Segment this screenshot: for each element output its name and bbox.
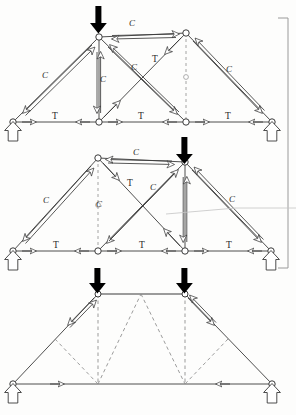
joint-bottom-mid-left — [95, 248, 101, 254]
member-label: T — [138, 111, 144, 121]
member-label: T — [139, 240, 145, 250]
applied-load-arrow-left — [89, 268, 106, 294]
support-reaction-right — [264, 384, 281, 404]
dashed-web-right-diagonal — [141, 294, 185, 384]
joint-top-right — [183, 30, 189, 36]
force-arrow-left-rafter-c — [23, 166, 94, 244]
force-arrow-left-rafter-c — [23, 45, 95, 116]
force-arrow-right-rafter — [188, 296, 216, 326]
force-arrow-diagonal-c — [108, 45, 179, 114]
joint-top-left — [95, 155, 101, 161]
member-label: C — [131, 62, 138, 72]
right-rafter — [186, 33, 272, 122]
right-bracket — [278, 18, 288, 268]
member-label: T — [152, 54, 158, 64]
joint-bottom-mid-right — [182, 248, 188, 254]
member-label: C — [43, 195, 50, 205]
applied-load-arrow — [90, 6, 107, 34]
member-label: C — [100, 74, 107, 84]
joint-apex — [96, 34, 102, 40]
dashed-web-left-diagonal — [98, 294, 141, 384]
member-label: C — [226, 64, 233, 74]
truss-diagram-3 — [5, 268, 281, 403]
dashed-web-outer-right — [185, 339, 228, 384]
member-label: T — [226, 240, 232, 250]
member-label: C — [150, 182, 157, 192]
member-label: T — [127, 178, 133, 188]
member-label: T — [53, 240, 59, 250]
support-reaction-left — [5, 384, 22, 404]
dashed-web-outer-left — [55, 339, 98, 384]
member-label: C — [229, 194, 236, 204]
joint-bottom-mid-left — [96, 119, 102, 125]
support-reaction-right — [263, 251, 280, 271]
member-label: T — [225, 111, 231, 121]
truss-diagram-1: C C C C T C T T T — [5, 6, 281, 141]
force-arrow-top-chord-c — [112, 34, 179, 39]
truss-diagram-2: C C C T C C T T T — [5, 137, 280, 270]
joint-bottom-mid-right — [183, 119, 189, 125]
right-rafter — [185, 162, 271, 251]
force-arrow-right-rafter-c — [193, 39, 265, 114]
applied-load-arrow — [176, 137, 193, 164]
member-label: T — [52, 111, 58, 121]
support-reaction-left — [5, 251, 22, 271]
left-rafter — [13, 37, 99, 122]
member-label: C — [133, 147, 140, 157]
truss-figure: C C C C T C T T T — [0, 0, 296, 415]
right-rafter — [185, 294, 272, 384]
force-arrow-left-rafter — [68, 298, 96, 328]
member-label: C — [96, 199, 103, 209]
force-arrow-top-chord-c — [106, 160, 174, 165]
support-reaction-left — [5, 122, 22, 142]
member-label: C — [129, 18, 136, 28]
force-arrow-right-rafter-c — [192, 168, 264, 243]
truss-svg-canvas: C C C C T C T T T — [0, 0, 296, 415]
reference-node — [184, 75, 189, 80]
support-reaction-right — [264, 122, 281, 142]
applied-load-arrow-right — [176, 268, 193, 294]
member-label: C — [42, 70, 49, 80]
